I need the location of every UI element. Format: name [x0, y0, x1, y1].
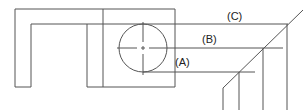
label-B: (B) [202, 33, 217, 45]
inner-top-line [31, 24, 288, 87]
hole-circle [117, 22, 169, 75]
label-A: (A) [175, 56, 190, 68]
technical-drawing: (A) (B) (C) [0, 0, 308, 110]
miter-construction [223, 10, 303, 110]
label-C: (C) [227, 10, 242, 22]
